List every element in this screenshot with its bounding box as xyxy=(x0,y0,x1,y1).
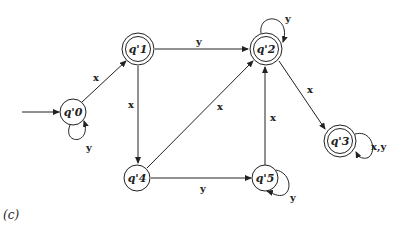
edge-q3-q3 xyxy=(355,133,373,158)
state-q5: q'5 xyxy=(252,165,278,191)
edge-q0-q1 xyxy=(82,61,126,102)
state-label-q5: q'5 xyxy=(256,172,275,185)
state-diagram: x y y x y x x,y x y x y q'0 q'1 q'2 xyxy=(0,0,405,226)
state-q2: q'2 xyxy=(250,33,282,65)
state-label-q1: q'1 xyxy=(129,43,148,56)
edge-label-q0-q1: x xyxy=(93,72,100,83)
state-label-q4: q'4 xyxy=(128,172,147,185)
edge-label-q1-q4: x xyxy=(128,99,135,110)
edge-label-q4-q5: y xyxy=(199,183,207,194)
figure-caption: (c) xyxy=(3,208,19,222)
edge-q2-q3 xyxy=(279,61,325,129)
state-label-q0: q'0 xyxy=(64,106,83,119)
edge-label-q0-q0: y xyxy=(85,142,93,153)
edge-label-q4-q2: x xyxy=(217,101,224,112)
state-label-q3: q'3 xyxy=(331,135,350,148)
edge-label-q5-q5: y xyxy=(289,192,297,203)
state-q0: q'0 xyxy=(60,99,86,125)
state-q4: q'4 xyxy=(124,165,150,191)
edge-label-q3-q3: x,y xyxy=(371,141,387,153)
edge-label-q2-q2: y xyxy=(284,13,292,24)
edge-label-q2-q3: x xyxy=(307,84,314,95)
edge-q4-q2 xyxy=(147,61,253,168)
edge-label-q1-q2: y xyxy=(195,36,203,47)
edge-label-q5-q2: x xyxy=(270,112,277,123)
state-label-q2: q'2 xyxy=(257,43,276,56)
state-q3: q'3 xyxy=(324,125,356,157)
state-q1: q'1 xyxy=(122,33,154,65)
